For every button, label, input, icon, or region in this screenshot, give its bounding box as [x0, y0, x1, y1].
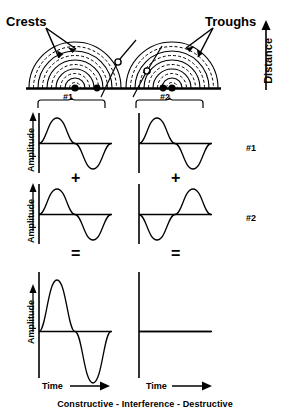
time-axis-right: [172, 382, 212, 391]
probe-marker-constructive: [115, 59, 121, 65]
bracket-dot-1: [94, 85, 101, 92]
source-1-label: #1: [63, 92, 73, 102]
plot-destructive-sum: [139, 272, 212, 378]
source-dot-2: [168, 84, 175, 91]
row-2-label: #2: [246, 213, 256, 223]
figure-caption: Constructive - Interference - Destructiv…: [0, 399, 290, 409]
time-axis-label-left: Time: [42, 381, 63, 391]
amplitude-axis-label-row2: Amplitude: [26, 199, 36, 243]
troughs-label: Troughs: [205, 14, 256, 29]
time-axis-label-right: Time: [146, 381, 167, 391]
figure-canvas: [0, 0, 290, 418]
crests-leader-lines: [46, 28, 76, 58]
time-axis-left: [70, 382, 110, 391]
plot-constructive-wave-2: [30, 183, 113, 244]
amplitude-axis-label-row1: Amplitude: [26, 128, 36, 172]
probe-leader-1b: [120, 40, 137, 60]
row-1-label: #1: [246, 143, 256, 153]
amplitude-axis-label-row3: Amplitude: [26, 300, 36, 344]
row-wave-1: [30, 112, 213, 173]
plot-constructive-sum: [30, 272, 113, 383]
operator-equals-right: =: [171, 246, 180, 262]
bracket-dot-2: [160, 85, 167, 92]
plot-constructive-wave-1: [30, 112, 113, 173]
row-sum: [30, 272, 213, 383]
troughs-leader-lines: [186, 28, 213, 57]
source-dot-1: [71, 84, 78, 91]
crests-label: Crests: [6, 14, 46, 29]
plot-destructive-wave-1: [139, 113, 212, 173]
source-2-label: #2: [160, 92, 170, 102]
operator-plus-left: +: [71, 170, 80, 186]
plot-destructive-wave-2: [139, 184, 212, 244]
row-wave-2: [30, 183, 213, 244]
operator-plus-right: +: [171, 170, 180, 186]
operator-equals-left: =: [71, 246, 80, 262]
wavefronts-source-2: [126, 42, 218, 88]
ripple-map: [26, 20, 271, 97]
distance-axis-label: Distance: [262, 38, 274, 84]
interference-figure: Crests Troughs Distance #1 #2 #1 #2 Ampl…: [0, 0, 290, 418]
probe-leader-1: [101, 65, 117, 98]
